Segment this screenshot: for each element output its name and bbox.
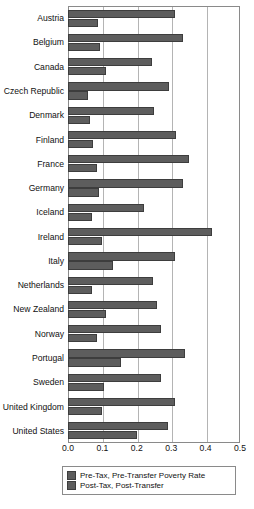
category-label: United States xyxy=(0,426,64,436)
category-label: United Kingdom xyxy=(0,402,64,412)
bar-post-tax xyxy=(68,237,102,245)
bar-group xyxy=(68,10,240,27)
bar-post-tax xyxy=(68,19,98,27)
bar-post-tax xyxy=(68,213,92,221)
category-label: Norway xyxy=(0,329,64,339)
legend-label: Post-Tax, Post-Transfer xyxy=(80,481,164,490)
bar-post-tax xyxy=(68,358,121,366)
category-label: France xyxy=(0,159,64,169)
category-label: Sweden xyxy=(0,377,64,387)
legend-swatch-icon xyxy=(67,481,76,490)
bar-pre-tax xyxy=(68,58,152,66)
legend-label: Pre-Tax, Pre-Transfer Poverty Rate xyxy=(80,471,205,480)
bar-post-tax xyxy=(68,383,104,391)
bar-post-tax xyxy=(68,164,97,172)
bar-group xyxy=(68,107,240,124)
category-label: Czech Republic xyxy=(0,86,64,96)
bar-group xyxy=(68,422,240,439)
category-label: Finland xyxy=(0,135,64,145)
x-tick-label: 0.0 xyxy=(62,443,74,454)
poverty-rate-bar-chart: AustriaBelgiumCanadaCzech RepublicDenmar… xyxy=(0,0,254,509)
bar-pre-tax xyxy=(68,179,183,187)
legend-swatch-icon xyxy=(67,471,76,480)
bar-group xyxy=(68,325,240,342)
bar-pre-tax xyxy=(68,82,169,90)
bar-pre-tax xyxy=(68,10,175,18)
bar-group xyxy=(68,301,240,318)
bar-pre-tax xyxy=(68,301,157,309)
bar-pre-tax xyxy=(68,155,189,163)
bar-pre-tax xyxy=(68,374,161,382)
category-label: Belgium xyxy=(0,37,64,47)
bar-group xyxy=(68,204,240,221)
bar-post-tax xyxy=(68,43,100,51)
bar-group xyxy=(68,374,240,391)
category-label: Italy xyxy=(0,256,64,266)
bar-group xyxy=(68,155,240,172)
bar-post-tax xyxy=(68,407,102,415)
category-label: Austria xyxy=(0,13,64,23)
bar-group xyxy=(68,349,240,366)
category-label: New Zealand xyxy=(0,304,64,314)
legend-item: Pre-Tax, Pre-Transfer Poverty Rate xyxy=(67,471,231,480)
category-label: Germany xyxy=(0,183,64,193)
bar-pre-tax xyxy=(68,228,212,236)
bar-pre-tax xyxy=(68,107,154,115)
bar-pre-tax xyxy=(68,252,175,260)
x-tick-label: 0.4 xyxy=(200,443,212,454)
bar-post-tax xyxy=(68,188,99,196)
bar-pre-tax xyxy=(68,349,185,357)
bar-post-tax xyxy=(68,431,137,439)
bar-group xyxy=(68,228,240,245)
bar-group xyxy=(68,82,240,99)
x-tick-label: 0.3 xyxy=(165,443,177,454)
category-label: Iceland xyxy=(0,207,64,217)
category-label: Denmark xyxy=(0,110,64,120)
category-axis-labels: AustriaBelgiumCanadaCzech RepublicDenmar… xyxy=(0,6,64,443)
bar-post-tax xyxy=(68,334,97,342)
category-label: Netherlands xyxy=(0,280,64,290)
bar-pre-tax xyxy=(68,398,175,406)
bar-pre-tax xyxy=(68,204,144,212)
bar-group xyxy=(68,398,240,415)
chart-legend: Pre-Tax, Pre-Transfer Poverty RatePost-T… xyxy=(62,466,236,495)
x-tick-label: 0.1 xyxy=(96,443,108,454)
bar-group xyxy=(68,58,240,75)
bar-pre-tax xyxy=(68,34,183,42)
bar-group xyxy=(68,179,240,196)
bars-layer xyxy=(68,6,240,443)
bar-post-tax xyxy=(68,140,93,148)
x-tick-label: 0.2 xyxy=(131,443,143,454)
category-label: Canada xyxy=(0,62,64,72)
bar-post-tax xyxy=(68,261,113,269)
bar-pre-tax xyxy=(68,131,176,139)
bar-post-tax xyxy=(68,116,90,124)
bar-group xyxy=(68,252,240,269)
category-label: Portugal xyxy=(0,353,64,363)
value-axis: 0.00.10.20.30.40.5 xyxy=(68,443,240,457)
plot-area: AustriaBelgiumCanadaCzech RepublicDenmar… xyxy=(0,6,254,446)
bar-pre-tax xyxy=(68,325,161,333)
bar-group xyxy=(68,131,240,148)
bar-post-tax xyxy=(68,310,106,318)
bar-post-tax xyxy=(68,286,92,294)
bar-post-tax xyxy=(68,67,106,75)
bar-pre-tax xyxy=(68,422,168,430)
bar-group xyxy=(68,34,240,51)
bar-post-tax xyxy=(68,91,88,99)
category-label: Ireland xyxy=(0,232,64,242)
bar-pre-tax xyxy=(68,277,153,285)
bar-group xyxy=(68,277,240,294)
legend-item: Post-Tax, Post-Transfer xyxy=(67,481,231,490)
x-tick-label: 0.5 xyxy=(234,443,246,454)
